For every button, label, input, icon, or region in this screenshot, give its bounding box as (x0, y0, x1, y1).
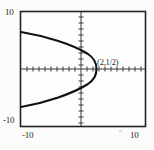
y-axis-max-label: 10 (5, 7, 14, 17)
x-axis-min-label: -10 (22, 130, 33, 140)
vertex-point-annotation: (2,1/2) (97, 57, 119, 67)
parabola-figure: 10 -10 -10 10 (2,1/2) (0, 0, 154, 150)
x-axis-max-label: 10 (130, 130, 139, 140)
plot-area (0, 0, 154, 150)
y-axis-min-label: -10 (3, 115, 14, 125)
